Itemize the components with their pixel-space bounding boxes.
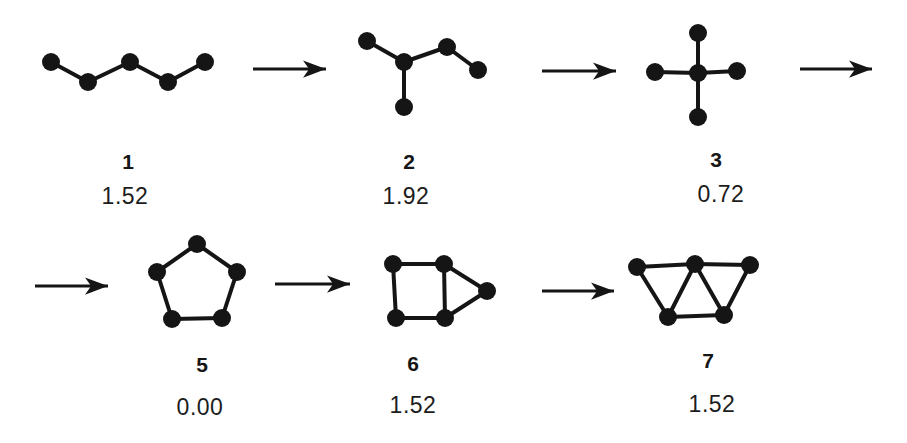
graph-node [188, 235, 206, 253]
structure-5-label: 5 [196, 354, 208, 375]
graph-node [689, 64, 707, 82]
graph-node [228, 263, 246, 281]
structure-1-value: 1.52 [102, 185, 149, 208]
graph-node [42, 53, 60, 71]
graph-node [646, 63, 664, 81]
graph-node [628, 258, 646, 276]
graph-node [395, 53, 413, 71]
graph-node [659, 308, 677, 326]
structure-6-label: 6 [407, 353, 419, 374]
graph-node [358, 32, 376, 50]
graph-node [689, 24, 707, 42]
graph-node [478, 282, 496, 300]
graph-node [469, 61, 487, 79]
structure-2-value: 1.92 [383, 185, 430, 208]
structure-2-label: 2 [403, 151, 415, 172]
molecular-graph-diagram: 1 1.52 2 1.92 3 0.72 5 0.00 6 1.52 7 1.5… [0, 0, 907, 443]
graph-layer [35, 24, 872, 328]
graph-node [741, 256, 759, 274]
graph-node [686, 255, 704, 273]
structure-1-label: 1 [122, 151, 134, 172]
graph-node [148, 263, 166, 281]
graph-node [728, 62, 746, 80]
graph-node [395, 98, 413, 116]
graph-node [435, 255, 453, 273]
graph-node [715, 306, 733, 324]
graph-node [196, 53, 214, 71]
structure-5-value: 0.00 [177, 396, 224, 419]
graph-node [79, 73, 97, 91]
graph-node [387, 309, 405, 327]
structure-6-value: 1.52 [390, 394, 437, 417]
graph-node [436, 309, 454, 327]
diagram-svg [0, 0, 907, 443]
graph-node [438, 38, 456, 56]
graph-node [159, 73, 177, 91]
structure-3-label: 3 [710, 149, 722, 170]
graph-node [689, 108, 707, 126]
graph-node [213, 309, 231, 327]
structure-3-value: 0.72 [698, 183, 745, 206]
graph-node [163, 310, 181, 328]
structure-7-label: 7 [702, 350, 714, 371]
graph-node [384, 255, 402, 273]
structure-7-value: 1.52 [689, 393, 736, 416]
graph-node [121, 53, 139, 71]
